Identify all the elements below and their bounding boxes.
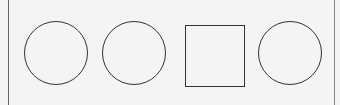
- circle-shape-3[interactable]: [258, 21, 322, 85]
- circle-shape-2[interactable]: [102, 21, 166, 85]
- circle-shape-1[interactable]: [24, 21, 88, 85]
- square-shape[interactable]: [185, 25, 245, 87]
